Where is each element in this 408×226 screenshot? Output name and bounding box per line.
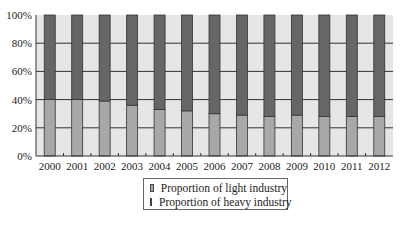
y-tick-label: 100%: [6, 9, 32, 21]
bar-segment: [374, 117, 385, 156]
bar-segment: [127, 15, 138, 105]
legend-item-heavy: Proportion of heavy industry: [150, 195, 287, 209]
bar-segment: [264, 117, 275, 156]
x-tick-label: 2004: [149, 160, 172, 172]
bar-segment: [154, 15, 165, 109]
bar-segment: [291, 115, 302, 156]
x-tick-label: 2007: [231, 160, 254, 172]
legend: Proportion of light industry Proportion …: [143, 178, 288, 210]
bar-segment: [99, 101, 110, 156]
bar-segment: [291, 15, 302, 115]
x-tick-label: 2002: [94, 160, 116, 172]
y-tick-label: 60%: [12, 65, 32, 77]
bar-segment: [72, 15, 83, 100]
legend-label-heavy: Proportion of heavy industry: [159, 196, 292, 208]
bar-segment: [182, 111, 193, 156]
bar-segment: [374, 15, 385, 117]
x-tick-label: 2009: [286, 160, 309, 172]
bar-segment: [154, 109, 165, 156]
x-tick-label: 2008: [258, 160, 281, 172]
legend-swatch-light-icon: [150, 184, 154, 192]
stacked-bar-chart: 0%20%40%60%80%100% 200020012002200320042…: [0, 0, 408, 178]
bar-segment: [127, 105, 138, 156]
bar-segment: [72, 100, 83, 156]
x-tick-label: 2010: [313, 160, 336, 172]
bar-segment: [209, 114, 220, 156]
bar-segment: [236, 15, 247, 115]
bar-segment: [44, 100, 55, 156]
legend-label-light: Proportion of light industry: [161, 182, 287, 194]
x-tick-label: 2003: [121, 160, 144, 172]
y-tick-label: 0%: [17, 150, 32, 162]
bar-segment: [319, 117, 330, 156]
x-axis: 2000200120022003200420052006200720082009…: [36, 153, 393, 172]
x-tick-label: 2001: [66, 160, 88, 172]
bar-segment: [182, 15, 193, 111]
y-axis: 0%20%40%60%80%100%: [6, 9, 36, 162]
legend-item-light: Proportion of light industry: [150, 181, 287, 195]
bar-segment: [346, 15, 357, 117]
legend-swatch-heavy-icon: [150, 198, 152, 206]
y-tick-label: 80%: [12, 37, 32, 49]
x-tick-label: 2005: [176, 160, 199, 172]
x-tick-label: 2006: [204, 160, 227, 172]
bar-segment: [319, 15, 330, 117]
y-tick-label: 40%: [12, 94, 32, 106]
x-tick-label: 2011: [341, 160, 363, 172]
bar-segment: [44, 15, 55, 100]
bar-segment: [236, 115, 247, 156]
x-tick-label: 2000: [39, 160, 62, 172]
bar-segment: [346, 117, 357, 156]
bar-segment: [264, 15, 275, 117]
y-tick-label: 20%: [12, 122, 32, 134]
bar-segment: [209, 15, 220, 114]
bar-segment: [99, 15, 110, 101]
x-tick-label: 2012: [368, 160, 390, 172]
